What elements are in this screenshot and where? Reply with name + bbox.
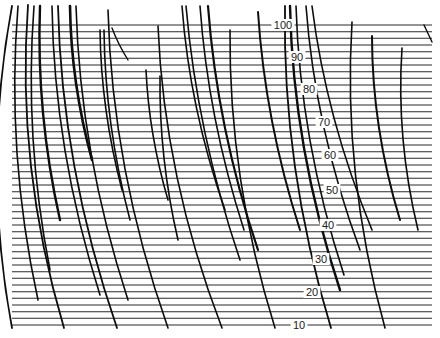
scale-label: 80	[303, 83, 315, 95]
arc-trace	[424, 25, 432, 42]
scale-label: 20	[306, 286, 318, 298]
arc-trace	[76, 6, 128, 300]
arc-trace	[0, 6, 12, 328]
scale-label: 30	[315, 253, 327, 265]
arc-trace	[350, 22, 385, 328]
arc-trace	[100, 30, 122, 190]
scale-label: 90	[291, 51, 303, 63]
scale-label: 100	[274, 19, 292, 31]
scale-label: 50	[326, 184, 338, 196]
scale-label: 10	[293, 319, 305, 331]
arc-trace	[208, 6, 258, 250]
scale-label: 40	[322, 219, 334, 231]
arc-trace	[372, 36, 400, 220]
arc-traces	[0, 5, 432, 328]
arc-diagram: 100908070605040302010	[0, 0, 440, 338]
arc-trace	[401, 48, 418, 230]
arc-trace	[112, 28, 128, 60]
arc-trace	[186, 6, 240, 260]
scale-labels: 100908070605040302010	[271, 19, 340, 331]
arc-trace	[146, 70, 168, 200]
scale-label: 70	[318, 116, 330, 128]
arc-trace	[58, 6, 117, 328]
scale-label: 60	[324, 149, 336, 161]
diagram-canvas: 100908070605040302010	[0, 0, 440, 338]
